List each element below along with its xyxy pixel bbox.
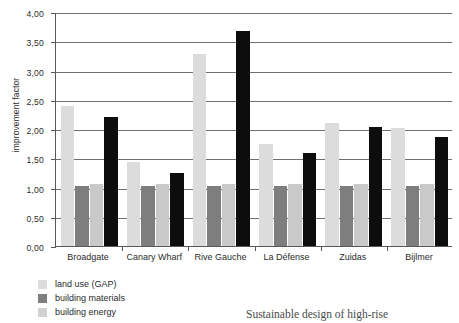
y-tick-label: 1,00 (26, 185, 44, 195)
y-tick-label: 3,50 (26, 38, 44, 48)
chart-legend: land use (GAP)building materialsbuilding… (38, 277, 125, 319)
bar (354, 184, 368, 246)
legend-label: building energy (55, 307, 116, 317)
figure-caption: Sustainable design of high-rise (246, 309, 459, 323)
x-axis-label: Broadgate (55, 252, 121, 262)
bar-group (387, 13, 453, 246)
bar-group (255, 13, 321, 246)
x-axis-label: Canary Wharf (121, 252, 187, 262)
bar (391, 128, 405, 246)
legend-item: building materials (38, 291, 125, 305)
y-tick-label: 3,00 (26, 68, 44, 78)
legend-swatch (38, 280, 47, 289)
bar (325, 123, 339, 246)
y-tick-label: 4,00 (26, 9, 44, 19)
caption-text: Sustainable design of high-rise (246, 309, 459, 320)
legend-label: land use (GAP) (55, 279, 117, 289)
bar (259, 144, 273, 246)
bar (90, 184, 104, 246)
bar (340, 186, 354, 246)
bar (156, 184, 170, 246)
bar (61, 106, 75, 246)
bar (207, 186, 221, 246)
y-tick-label: 0,00 (26, 243, 44, 253)
x-separator (122, 246, 123, 251)
x-axis-label: La Défense (254, 252, 320, 262)
x-separator (188, 246, 189, 251)
x-separator (255, 246, 256, 251)
bar (127, 162, 141, 246)
bar (236, 31, 250, 246)
y-axis-title: improvement factor (11, 45, 21, 185)
bar-group (56, 13, 122, 246)
y-tick: 0,00 (51, 247, 56, 248)
legend-label: building materials (55, 293, 125, 303)
x-axis-label: Zuidas (320, 252, 386, 262)
bar (274, 186, 288, 246)
bar (141, 186, 155, 246)
bar (303, 153, 317, 246)
bar-group (321, 13, 387, 246)
legend-swatch (38, 308, 47, 317)
x-separator (321, 246, 322, 251)
y-tick-label: 1,50 (26, 155, 44, 165)
legend-item: building energy (38, 305, 125, 319)
bar (193, 54, 207, 246)
bar (104, 117, 118, 246)
legend-item: land use (GAP) (38, 277, 125, 291)
chart-figure: improvement factor 0,000,501,001,502,002… (0, 0, 459, 323)
bar (288, 184, 302, 246)
bar (170, 173, 184, 246)
bar (222, 184, 236, 246)
bar (406, 186, 420, 246)
y-tick-label: 2,50 (26, 97, 44, 107)
x-axis-label: Rive Gauche (187, 252, 253, 262)
plot-area: 0,000,501,001,502,002,503,003,504,00 (55, 13, 452, 247)
bar (420, 184, 434, 246)
bar-group (188, 13, 254, 246)
bar (75, 186, 89, 246)
bar-group (122, 13, 188, 246)
bar (369, 127, 383, 246)
x-separator (387, 246, 388, 251)
y-tick-label: 2,00 (26, 126, 44, 136)
x-axis-label: Bijlmer (386, 252, 452, 262)
legend-swatch (38, 294, 47, 303)
bar (435, 137, 449, 246)
y-tick-label: 0,50 (26, 214, 44, 224)
